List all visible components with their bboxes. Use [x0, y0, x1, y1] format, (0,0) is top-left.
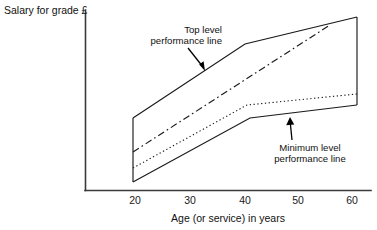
minimum-level-annotation-line1: Minimum level — [279, 142, 340, 153]
chart-canvas: Salary for grade £ 20 30 40 50 60 Age (o… — [0, 0, 377, 230]
minimum-level-annotation-line2: performance line — [274, 153, 345, 164]
y-axis-label: Salary for grade £ — [4, 4, 88, 16]
top-level-performance-line — [133, 17, 357, 118]
x-tick-label-40: 40 — [239, 194, 251, 206]
top-level-annotation-line1: Top level — [184, 24, 222, 35]
x-tick-label-30: 30 — [184, 194, 196, 206]
salary-grade-chart: Salary for grade £ 20 30 40 50 60 Age (o… — [0, 0, 377, 230]
x-tick-label-50: 50 — [292, 194, 304, 206]
top-level-arrow — [188, 48, 205, 71]
top-level-annotation-line2: performance line — [151, 35, 222, 46]
x-tick-label-60: 60 — [346, 194, 358, 206]
minimum-level-arrow — [286, 117, 294, 140]
x-axis-label: Age (or service) in years — [171, 212, 285, 224]
x-tick-label-20: 20 — [129, 194, 141, 206]
